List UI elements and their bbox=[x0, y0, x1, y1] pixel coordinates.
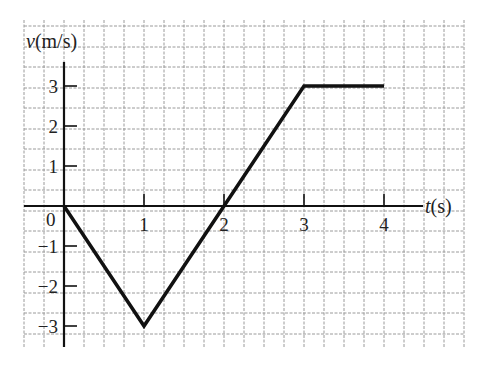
y-axis-label: v(m/s) bbox=[26, 30, 77, 53]
y-tick-label: 2 bbox=[49, 116, 59, 137]
y-tick-label: −3 bbox=[38, 316, 58, 337]
y-tick-label: −1 bbox=[38, 236, 58, 257]
x-axis-label: t(s) bbox=[425, 195, 452, 218]
x-tick-label: 4 bbox=[379, 214, 389, 235]
y-tick-label: −2 bbox=[38, 276, 58, 297]
origin-label: 0 bbox=[46, 209, 56, 230]
y-tick-label: 1 bbox=[49, 156, 59, 177]
grid bbox=[24, 20, 464, 348]
velocity-time-chart: v(m/s) t(s) 0 1234321−1−2−3 bbox=[0, 0, 481, 368]
labels: v(m/s) t(s) 0 bbox=[26, 30, 452, 230]
x-tick-label: 2 bbox=[219, 214, 229, 235]
y-tick-label: 3 bbox=[49, 76, 59, 97]
x-tick-label: 3 bbox=[299, 214, 309, 235]
x-tick-label: 1 bbox=[139, 214, 149, 235]
